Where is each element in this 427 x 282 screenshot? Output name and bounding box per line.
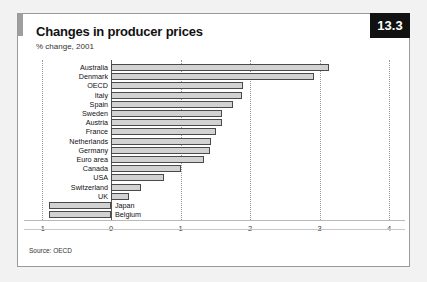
bar-row: Austria: [18, 118, 411, 127]
chart-card: 13.3 Changes in producer prices % change…: [17, 13, 410, 267]
source-note: Source: OECD: [29, 247, 72, 254]
bar-label-belgium: Belgium: [115, 210, 141, 219]
bar-row: OECD: [18, 81, 411, 90]
bar-sweden: [111, 110, 222, 117]
bar-row: UK: [18, 192, 411, 201]
footer-divider: [24, 229, 405, 230]
bar-usa: [111, 174, 164, 181]
bar-label-switzerland: Switzerland: [18, 183, 108, 192]
bar-euro-area: [111, 156, 204, 163]
bar-label-france: France: [18, 127, 108, 136]
bar-row: Euro area: [18, 155, 411, 164]
bar-austria: [111, 119, 222, 126]
bar-france: [111, 128, 216, 135]
bar-row: Denmark: [18, 72, 411, 81]
page-subtitle: % change, 2001: [36, 42, 94, 51]
bar-australia: [111, 64, 329, 71]
bar-row: Belgium: [18, 210, 411, 219]
bar-canada: [111, 165, 181, 172]
bar-label-austria: Austria: [18, 118, 108, 127]
bar-belgium: [49, 211, 111, 218]
bar-label-spain: Spain: [18, 100, 108, 109]
bar-germany: [111, 147, 210, 154]
bar-chart-plot: AustraliaDenmarkOECDItalySpainSwedenAust…: [18, 60, 411, 240]
bar-label-canada: Canada: [18, 164, 108, 173]
bar-denmark: [111, 73, 314, 80]
bar-label-italy: Italy: [18, 91, 108, 100]
bar-label-netherlands: Netherlands: [18, 137, 108, 146]
bar-row: Sweden: [18, 109, 411, 118]
bar-uk: [111, 193, 129, 200]
bar-row: Germany: [18, 146, 411, 155]
bar-row: Italy: [18, 91, 411, 100]
bar-japan: [49, 202, 111, 209]
bar-row: USA: [18, 173, 411, 182]
page-title: Changes in producer prices: [36, 24, 203, 39]
bar-row: France: [18, 127, 411, 136]
bar-label-euro-area: Euro area: [18, 155, 108, 164]
chart-number-badge: 13.3: [370, 13, 410, 38]
bar-row: Spain: [18, 100, 411, 109]
bar-label-sweden: Sweden: [18, 109, 108, 118]
bar-netherlands: [111, 138, 211, 145]
bar-switzerland: [111, 184, 141, 191]
bar-oecd: [111, 82, 243, 89]
bar-row: Canada: [18, 164, 411, 173]
axis-baseline: [24, 220, 405, 221]
bar-label-oecd: OECD: [18, 81, 108, 90]
bar-label-denmark: Denmark: [18, 72, 108, 81]
bar-label-germany: Germany: [18, 146, 108, 155]
bar-spain: [111, 101, 233, 108]
bar-row: Netherlands: [18, 137, 411, 146]
bar-label-japan: Japan: [115, 201, 135, 210]
bar-row: Australia: [18, 63, 411, 72]
bar-label-australia: Australia: [18, 63, 108, 72]
bar-italy: [111, 92, 242, 99]
bar-row: Japan: [18, 201, 411, 210]
screenshot-root: 13.3 Changes in producer prices % change…: [0, 0, 427, 282]
corner-accent-mark: [18, 14, 23, 36]
bar-label-uk: UK: [18, 192, 108, 201]
bar-row: Switzerland: [18, 183, 411, 192]
bar-label-usa: USA: [18, 173, 108, 182]
